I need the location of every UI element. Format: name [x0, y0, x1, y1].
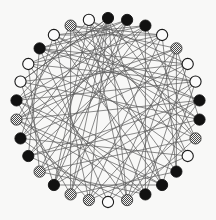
graph-node-hatched	[190, 133, 201, 144]
graph-node-hatched	[11, 114, 22, 125]
graph-node-hatched	[65, 189, 76, 200]
graph-node-black	[157, 179, 168, 190]
graph-node-hatched	[83, 195, 94, 206]
graph-node-white	[15, 76, 26, 87]
graph-node-black	[15, 133, 26, 144]
graph-edge	[21, 138, 109, 202]
graph-node-black	[171, 166, 182, 177]
graph-node-hatched	[122, 195, 133, 206]
graph-node-white	[102, 196, 113, 207]
graph-node-white	[182, 150, 193, 161]
graph-edge	[54, 20, 127, 185]
graph-node-hatched	[34, 166, 45, 177]
graph-node-black	[122, 14, 133, 25]
graph-edge	[108, 18, 196, 138]
circular-graph-figure	[0, 0, 216, 220]
graph-node-white	[23, 58, 34, 69]
graph-node-hatched	[171, 43, 182, 54]
graph-node-white	[48, 29, 59, 40]
graph-node-hatched	[65, 20, 76, 31]
graph-node-white	[182, 58, 193, 69]
graph-node-white	[190, 76, 201, 87]
graph-node-black	[194, 95, 205, 106]
graph-node-black	[140, 20, 151, 31]
graph-edge	[71, 18, 108, 194]
graph-node-white	[83, 14, 94, 25]
graph-node-black	[34, 43, 45, 54]
graph-node-black	[48, 179, 59, 190]
graph-node-black	[140, 189, 151, 200]
graph-node-white	[157, 29, 168, 40]
graph-node-black	[194, 114, 205, 125]
graph-node-black	[102, 12, 113, 23]
graph-canvas	[0, 0, 216, 220]
graph-node-black	[11, 95, 22, 106]
graph-node-black	[23, 150, 34, 161]
graph-edge	[54, 18, 108, 185]
